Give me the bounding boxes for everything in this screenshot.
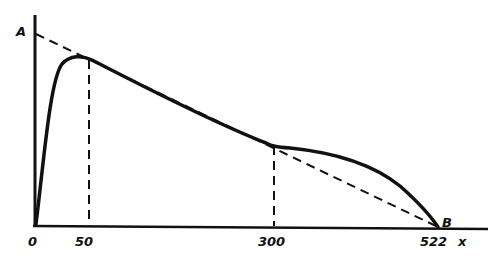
tick-label-50: 50 xyxy=(75,234,93,249)
tick-label-522: 522 xyxy=(420,234,447,249)
point-a-label: A xyxy=(15,24,26,39)
x-axis-label: x xyxy=(457,234,467,249)
origin-label: 0 xyxy=(28,234,37,249)
x-axis xyxy=(33,226,488,229)
tick-label-300: 300 xyxy=(258,234,285,249)
point-b-label: B xyxy=(442,215,452,230)
chart: A B 0 50 300 522 x xyxy=(0,0,499,256)
main-curve xyxy=(36,57,438,227)
